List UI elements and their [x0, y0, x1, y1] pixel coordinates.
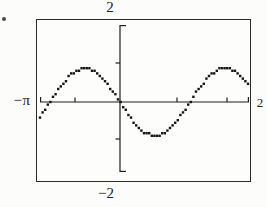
y-max-label: 2 — [101, 0, 119, 15]
x-min-label: −π — [9, 93, 35, 108]
y-min-label: −2 — [93, 186, 119, 201]
plot-svg — [0, 0, 267, 207]
textbook-figure: 2 −2 −π 2 — [0, 0, 267, 207]
x-max-label: 2 — [254, 96, 266, 109]
